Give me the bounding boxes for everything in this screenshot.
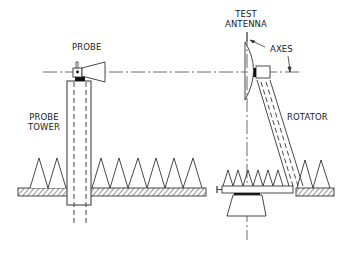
rotator-label: ROTATOR (287, 112, 328, 122)
test-antenna-label-line2: ANTENNA (225, 19, 267, 29)
test-antenna (245, 42, 254, 100)
test-antenna-label: TEST ANTENNA (225, 9, 267, 29)
absorber-cones-left (30, 158, 66, 188)
probe-tower-label: PROBE TOWER (28, 112, 60, 132)
rotator-base (227, 193, 266, 216)
probe-tower-label-line1: PROBE (28, 112, 60, 122)
axes-label: AXES (270, 44, 293, 54)
antenna-mount (253, 66, 270, 78)
rotator-arm (257, 80, 303, 186)
test-antenna-label-line1: TEST (225, 9, 267, 19)
rotator-absorber-cones (223, 170, 283, 186)
rotator-platform (217, 186, 293, 193)
floor-left (18, 188, 206, 196)
probe (73, 62, 105, 82)
absorber-cones-middle (92, 158, 202, 188)
probe-label: PROBE (72, 42, 101, 52)
floor-right (296, 188, 334, 196)
probe-tower-label-line2: TOWER (28, 122, 60, 132)
probe-tower (67, 81, 91, 225)
